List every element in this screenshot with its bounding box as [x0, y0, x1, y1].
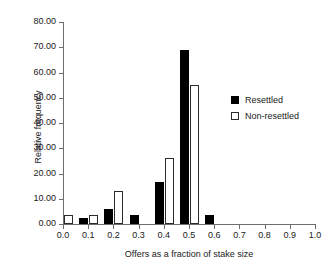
- bar: [165, 158, 174, 224]
- bar: [89, 215, 98, 224]
- x-tick-mark: [88, 224, 89, 229]
- y-tick-mark: [59, 73, 64, 74]
- y-tick-label: 60.00: [33, 67, 56, 77]
- x-tick-mark: [214, 224, 215, 229]
- legend-swatch-open-icon: [231, 112, 239, 120]
- legend-swatch-filled-icon: [231, 96, 239, 104]
- x-tick-mark: [239, 224, 240, 229]
- legend-label: Non-resettled: [245, 111, 299, 121]
- x-tick-mark: [290, 224, 291, 229]
- x-tick-mark: [63, 224, 64, 229]
- y-tick-mark: [59, 98, 64, 99]
- y-tick-label: 20.00: [33, 168, 56, 178]
- x-tick-mark: [113, 224, 114, 229]
- bar: [190, 85, 199, 224]
- bar: [64, 215, 73, 224]
- legend-item: Resettled: [231, 92, 299, 108]
- y-tick-label: 30.00: [33, 142, 56, 152]
- bar: [79, 218, 88, 224]
- y-tick-label: 80.00: [33, 16, 56, 26]
- x-tick-label: 1.0: [300, 230, 330, 240]
- chart-legend: ResettledNon-resettled: [231, 92, 299, 124]
- legend-item: Non-resettled: [231, 108, 299, 124]
- y-tick-label: 10.00: [33, 193, 56, 203]
- x-tick-mark: [265, 224, 266, 229]
- bar: [180, 50, 189, 224]
- x-tick-mark: [139, 224, 140, 229]
- x-tick-mark: [189, 224, 190, 229]
- x-tick-mark: [315, 224, 316, 229]
- x-axis-label: Offers as a fraction of stake size: [63, 249, 315, 259]
- y-tick-label: 40.00: [33, 117, 56, 127]
- legend-label: Resettled: [245, 95, 283, 105]
- bar: [130, 215, 139, 224]
- bar: [205, 215, 214, 224]
- y-tick-mark: [59, 199, 64, 200]
- x-tick-mark: [164, 224, 165, 229]
- y-tick-mark: [59, 22, 64, 23]
- y-tick-label: 50.00: [33, 92, 56, 102]
- y-tick-label: 0.00: [38, 218, 56, 228]
- bar: [114, 191, 123, 224]
- y-tick-mark: [59, 174, 64, 175]
- y-tick-mark: [59, 148, 64, 149]
- y-tick-mark: [59, 123, 64, 124]
- bar: [104, 209, 113, 224]
- y-tick-mark: [59, 47, 64, 48]
- chart-figure: Relative frequency 0.0010.0020.0030.0040…: [0, 0, 333, 269]
- bar: [155, 182, 164, 224]
- y-tick-label: 70.00: [33, 41, 56, 51]
